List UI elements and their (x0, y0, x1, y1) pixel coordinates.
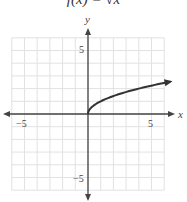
x-axis-label: x (177, 108, 183, 120)
chart-plot: x y −5 5 5 −5 (0, 0, 187, 202)
y-axis-label: y (84, 13, 90, 25)
y-tick-pos5: 5 (79, 44, 84, 55)
x-tick-pos5: 5 (148, 118, 153, 129)
x-tick-neg5: −5 (16, 118, 27, 129)
y-tick-neg5: −5 (73, 173, 84, 184)
x-axis-left-arrow-icon (3, 111, 10, 117)
y-axis-up-arrow-icon (85, 28, 91, 35)
curve-arrow-icon (164, 79, 173, 86)
x-axis-right-arrow-icon (168, 111, 175, 117)
y-axis-down-arrow-icon (85, 194, 91, 201)
